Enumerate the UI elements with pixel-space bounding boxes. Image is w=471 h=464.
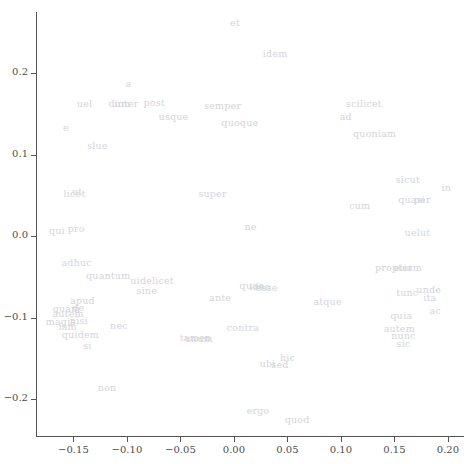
- y-tick-mark: [31, 236, 36, 237]
- word-label: quod: [285, 414, 310, 425]
- word-label: sic: [397, 338, 411, 349]
- x-tick-label: −0.10: [112, 444, 143, 455]
- word-label: post: [144, 96, 165, 107]
- x-tick-mark: [234, 437, 235, 442]
- word-label: quoniam: [353, 127, 396, 138]
- x-tick-mark: [73, 437, 74, 442]
- word-label: usque: [159, 110, 189, 121]
- x-axis-spine: [36, 436, 464, 437]
- word-label: non: [98, 382, 117, 393]
- word-label: quidem: [62, 328, 99, 339]
- word-label: a: [126, 78, 132, 89]
- y-tick-label: −0.1: [0, 311, 28, 322]
- y-tick-mark: [31, 399, 36, 400]
- word-label: quia: [391, 309, 413, 320]
- word-label: ut: [72, 185, 82, 196]
- word-label: ad: [340, 110, 352, 121]
- word-label: adhuc: [62, 256, 92, 267]
- x-tick-label: 0.00: [223, 444, 245, 455]
- word-label: ante: [209, 291, 231, 302]
- word-label: quantum: [86, 269, 130, 280]
- x-tick-label: 0.20: [437, 444, 459, 455]
- word-label: pro: [68, 223, 85, 234]
- word-label: etiam: [394, 262, 422, 273]
- word-label: scilicet: [346, 98, 382, 109]
- y-tick-label: 0.0: [0, 229, 28, 240]
- word-label: quoque: [221, 117, 258, 128]
- word-label: unum: [185, 332, 213, 343]
- word-label: nec: [110, 319, 128, 330]
- x-tick-mark: [180, 437, 181, 442]
- y-axis-spine: [36, 12, 37, 436]
- word-label: sicut: [396, 174, 420, 185]
- x-tick-mark: [287, 437, 288, 442]
- y-tick-label: 0.2: [0, 66, 28, 77]
- word-label: contra: [227, 321, 259, 332]
- word-label: atque: [313, 295, 341, 306]
- word-label: cum: [349, 199, 370, 210]
- word-label: esse: [256, 281, 278, 292]
- x-tick-mark: [448, 437, 449, 442]
- word-label: super: [198, 188, 226, 199]
- word-label: idem: [263, 47, 288, 58]
- y-tick-mark: [31, 318, 36, 319]
- y-tick-label: −0.2: [0, 392, 28, 403]
- word-label: tunc: [396, 286, 418, 297]
- word-label: si: [83, 339, 91, 350]
- word-label: qui: [49, 224, 65, 235]
- word-label: ac: [429, 305, 440, 316]
- word-label: sine: [137, 285, 157, 296]
- x-tick-label: 0.10: [330, 444, 352, 455]
- word-label: uelut: [405, 227, 431, 238]
- word-label: ne: [244, 220, 256, 231]
- x-tick-label: −0.05: [165, 444, 196, 455]
- word-label: et: [230, 16, 240, 27]
- word-label: uel: [77, 97, 92, 108]
- word-label: ita: [423, 292, 436, 303]
- word-label: ergo: [247, 405, 270, 416]
- x-tick-label: −0.15: [58, 444, 89, 455]
- y-tick-mark: [31, 73, 36, 74]
- word-label: per: [414, 193, 431, 204]
- word-label: semper: [204, 99, 241, 110]
- x-tick-label: 0.05: [276, 444, 298, 455]
- word-label: slue: [87, 139, 107, 150]
- x-tick-mark: [394, 437, 395, 442]
- scatter-plot-figure: 0.20.10.0−0.1−0.2 −0.15−0.10−0.050.000.0…: [0, 0, 471, 464]
- y-tick-mark: [31, 155, 36, 156]
- word-label: e: [63, 121, 69, 132]
- x-tick-label: 0.15: [383, 444, 405, 455]
- word-label: sed: [271, 359, 288, 370]
- y-tick-label: 0.1: [0, 148, 28, 159]
- word-label: in: [442, 182, 452, 193]
- word-label: inter: [114, 97, 138, 108]
- x-tick-mark: [127, 437, 128, 442]
- x-tick-mark: [341, 437, 342, 442]
